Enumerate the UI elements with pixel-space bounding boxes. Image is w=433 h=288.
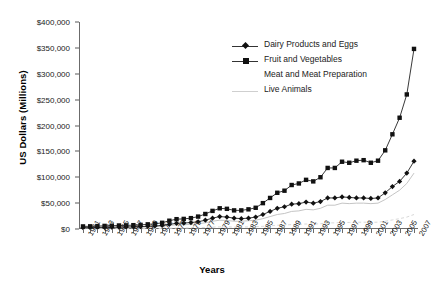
- series-marker: [210, 209, 214, 213]
- chart-legend: Dairy Products and EggsFruit and Vegetab…: [232, 39, 422, 99]
- series-marker: [232, 208, 236, 212]
- series-marker: [354, 195, 359, 200]
- series-marker: [318, 175, 322, 179]
- series-marker: [275, 206, 280, 211]
- series-marker: [232, 216, 237, 221]
- series-marker: [304, 178, 308, 182]
- series-marker: [203, 212, 207, 216]
- legend-no-marker-icon: [232, 76, 258, 77]
- series-marker: [339, 194, 344, 199]
- series-marker: [261, 201, 265, 205]
- series-marker: [275, 191, 279, 195]
- legend-item-label: Fruit and Vegetables: [264, 54, 342, 64]
- series-marker: [282, 204, 287, 209]
- y-axis-tick-label: $0: [61, 225, 70, 234]
- legend-square-marker-icon: [232, 61, 258, 62]
- series-marker: [361, 195, 366, 200]
- y-axis-tick-label: $150,000: [37, 147, 70, 156]
- series-marker: [347, 195, 352, 200]
- legend-diamond-marker-icon: [232, 46, 258, 47]
- series-marker: [296, 201, 301, 206]
- y-axis-tick-label: $400,000: [37, 18, 70, 27]
- legend-item-label: Meat and Meat Preparation: [264, 69, 367, 79]
- series-marker: [268, 196, 272, 200]
- series-marker: [332, 195, 337, 200]
- legend-item-label: Live Animals: [264, 84, 312, 94]
- series-marker: [347, 161, 351, 165]
- diamond-icon: [242, 42, 249, 49]
- series-marker: [303, 199, 308, 204]
- series-marker: [376, 158, 380, 162]
- y-axis-tick-label: $50,000: [41, 199, 70, 208]
- legend-item[interactable]: Meat and Meat Preparation: [232, 69, 422, 84]
- series-marker: [189, 216, 193, 220]
- series-marker: [311, 201, 316, 206]
- series-marker: [297, 181, 301, 185]
- series-marker: [260, 212, 265, 217]
- x-axis-labels: 1961196319651967196919711973197519771979…: [79, 233, 418, 267]
- y-axis-tick-label: $100,000: [37, 173, 70, 182]
- series-marker: [340, 160, 344, 164]
- legend-item-label: Dairy Products and Eggs: [264, 39, 358, 49]
- x-axis-title: Years: [0, 264, 424, 275]
- series-marker: [318, 199, 323, 204]
- y-axis-tick-label: $250,000: [37, 95, 70, 104]
- series-marker: [246, 207, 250, 211]
- y-axis-labels: $0$50,000$100,000$150,000$200,000$250,00…: [0, 0, 78, 288]
- series-marker: [325, 166, 329, 170]
- series-marker: [411, 159, 416, 164]
- series-marker: [368, 196, 373, 201]
- series-marker: [217, 214, 222, 219]
- series-marker: [311, 179, 315, 183]
- series-marker: [390, 132, 394, 136]
- series-marker: [196, 214, 200, 218]
- series-marker: [383, 148, 387, 152]
- series-marker: [282, 189, 286, 193]
- legend-item[interactable]: Dairy Products and Eggs: [232, 39, 422, 54]
- y-axis-tick-label: $300,000: [37, 69, 70, 78]
- series-marker: [225, 207, 229, 211]
- series-marker: [267, 209, 272, 214]
- square-icon: [243, 58, 249, 64]
- series-marker: [369, 161, 373, 165]
- series-marker: [333, 166, 337, 170]
- series-marker: [397, 116, 401, 120]
- series-marker: [81, 224, 85, 228]
- legend-line-marker-icon: [232, 91, 258, 92]
- series-marker: [218, 206, 222, 210]
- legend-item[interactable]: Live Animals: [232, 84, 422, 99]
- series-marker: [354, 158, 358, 162]
- series-marker: [289, 202, 294, 207]
- y-axis-tick-label: $200,000: [37, 121, 70, 130]
- series-marker: [325, 195, 330, 200]
- series-marker: [289, 183, 293, 187]
- bottom-caption-cutoff: [0, 281, 424, 288]
- legend-item[interactable]: Fruit and Vegetables: [232, 54, 422, 69]
- series-marker: [361, 158, 365, 162]
- y-axis-tick-label: $350,000: [37, 43, 70, 52]
- x-axis-tick-label: 2007: [417, 219, 433, 238]
- series-marker: [239, 208, 243, 212]
- series-marker: [254, 206, 258, 210]
